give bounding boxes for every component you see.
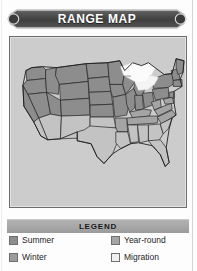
legend-item-migration[interactable]: Migration xyxy=(111,250,191,264)
legend-item-winter[interactable]: Winter xyxy=(9,250,89,264)
state-wy xyxy=(59,81,89,100)
legend-swatch-migration xyxy=(111,253,120,262)
page-left-rule xyxy=(1,0,2,271)
legend-column-right: Year-round Migration xyxy=(111,233,191,267)
state-ks xyxy=(90,104,114,117)
legend-swatch-winter xyxy=(9,253,18,262)
page-title: RANGE MAP xyxy=(7,9,187,29)
state-co xyxy=(60,98,90,116)
legend-column-left: Summer Winter xyxy=(9,233,89,267)
legend-label-winter: Winter xyxy=(22,252,47,262)
legend-header: LEGEND xyxy=(7,219,189,233)
state-in xyxy=(135,95,144,110)
legend-label-summer: Summer xyxy=(22,235,54,245)
us-range-map[interactable] xyxy=(10,37,186,207)
legend-body: Summer Winter Year-round Migration xyxy=(7,233,189,267)
state-la xyxy=(116,132,131,149)
legend-label-migration: Migration xyxy=(124,252,159,262)
range-map-card: RANGE MAP xyxy=(0,0,197,271)
state-nd xyxy=(86,63,109,79)
state-ne xyxy=(89,91,113,105)
map-panel[interactable] xyxy=(9,36,187,208)
state-tn xyxy=(127,116,159,125)
page-right-rule xyxy=(192,0,193,271)
legend-item-year-round[interactable]: Year-round xyxy=(111,233,191,247)
state-sd xyxy=(88,77,111,93)
legend-swatch-year-round xyxy=(111,236,120,245)
state-mn xyxy=(108,61,125,85)
legend-item-summer[interactable]: Summer xyxy=(9,233,89,247)
legend-label-year-round: Year-round xyxy=(124,235,166,245)
legend-swatch-summer xyxy=(9,236,18,245)
title-banner: RANGE MAP xyxy=(7,9,187,29)
state-al xyxy=(138,125,149,143)
legend-title: LEGEND xyxy=(7,220,189,233)
